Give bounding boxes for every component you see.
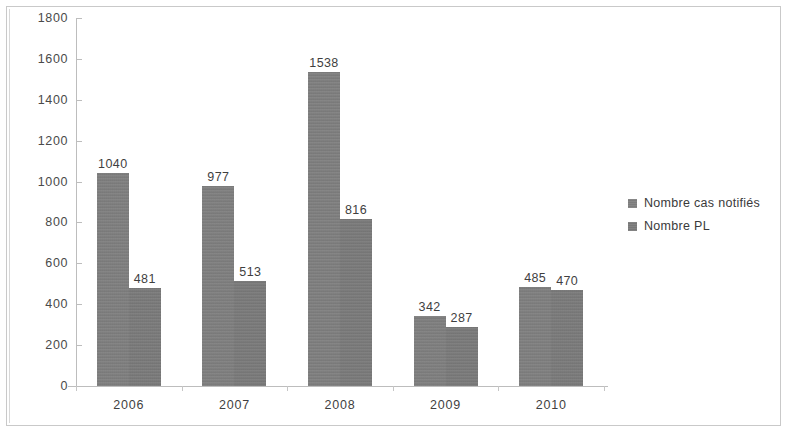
bar-2009-series-1 <box>414 316 446 386</box>
y-axis-tick-label: 1800 <box>38 12 68 25</box>
legend-item-1[interactable]: Nombre cas notifiés <box>628 196 780 210</box>
legend-swatch-icon <box>628 222 637 231</box>
bar-2008-series-1 <box>308 72 340 386</box>
x-axis-line <box>68 386 608 387</box>
bar-2010-series-1 <box>519 287 551 386</box>
y-axis-tick-label: 1600 <box>38 53 68 66</box>
x-axis-tick-label-2007: 2007 <box>219 398 250 412</box>
bar-value-label: 287 <box>451 312 473 325</box>
legend-item-2[interactable]: Nombre PL <box>628 219 780 233</box>
bar-2007-series-2 <box>234 281 266 386</box>
bar-value-label: 816 <box>345 204 367 217</box>
y-axis-tick-labels: 020040060080010001200140016001800 <box>0 0 68 432</box>
bar-2007-series-1 <box>202 186 234 386</box>
plot-area: 10404819775131538816342287485470 <box>76 18 604 386</box>
bar-2009-series-2 <box>446 327 478 386</box>
bar-value-label: 342 <box>419 301 441 314</box>
bar-2008-series-2 <box>340 219 372 386</box>
legend-swatch-icon <box>628 199 637 208</box>
x-axis-tick-label-2008: 2008 <box>324 398 355 412</box>
legend-item-label: Nombre PL <box>644 219 710 233</box>
y-axis-tick-label: 1400 <box>38 94 68 107</box>
bar-value-label: 1538 <box>309 57 338 70</box>
bar-2006-series-2 <box>129 288 161 386</box>
x-axis-tick-mark <box>604 386 605 391</box>
bar-value-label: 481 <box>134 273 156 286</box>
x-axis-tick-label-2009: 2009 <box>430 398 461 412</box>
y-axis-tick-label: 800 <box>45 216 68 229</box>
x-axis-tick-label-2010: 2010 <box>536 398 567 412</box>
bar-2006-series-1 <box>97 173 129 386</box>
y-axis-tick-label: 1000 <box>38 175 68 188</box>
y-axis-tick-label: 400 <box>45 298 68 311</box>
x-axis-tick-mark <box>498 386 499 391</box>
bar-2010-series-2 <box>551 290 583 386</box>
y-axis-tick-label: 600 <box>45 257 68 270</box>
bar-value-label: 977 <box>207 171 229 184</box>
chart-legend: Nombre cas notifiésNombre PL <box>628 196 780 242</box>
y-axis-tick-label: 1200 <box>38 134 68 147</box>
bar-value-label: 1040 <box>98 158 127 171</box>
bar-value-label: 513 <box>239 266 261 279</box>
bar-chart-figure: 020040060080010001200140016001800 104048… <box>0 0 788 432</box>
bar-value-label: 485 <box>524 272 546 285</box>
y-axis-tick-label: 200 <box>45 339 68 352</box>
y-axis-tick-label: 0 <box>60 380 68 393</box>
bar-value-label: 470 <box>556 275 578 288</box>
x-axis-tick-mark <box>393 386 394 391</box>
x-axis-tick-mark <box>182 386 183 391</box>
x-axis-tick-mark <box>76 386 77 391</box>
x-axis-tick-label-2006: 2006 <box>113 398 144 412</box>
legend-item-label: Nombre cas notifiés <box>644 196 760 210</box>
x-axis-tick-mark <box>287 386 288 391</box>
